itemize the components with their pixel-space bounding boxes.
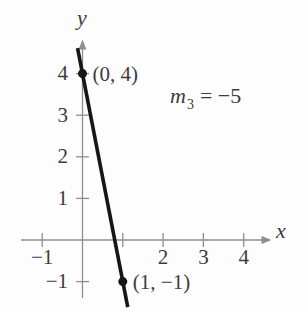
data-point-label: (0, 4) [93, 62, 139, 86]
y-tick-label: 1 [58, 186, 69, 210]
y-tick-label: −1 [46, 269, 68, 293]
x-tick-labels: −1234 [31, 245, 249, 269]
y-axis-arrow-icon [79, 40, 87, 50]
slope-annotation: m3= −5 [170, 83, 241, 112]
y-tick-label: 4 [58, 61, 69, 85]
x-axis: −1234 x [21, 218, 286, 269]
y-tick-label: 3 [58, 103, 69, 127]
slope-var: m [170, 83, 186, 108]
y-axis-title: y [75, 5, 87, 30]
graph-canvas: −1234 x 4321−1 y (0, 4)(1, −1) m3= −5 [0, 0, 308, 311]
x-axis-arrow-icon [262, 236, 272, 244]
x-tick-label: −1 [31, 245, 53, 269]
data-point-label: (1, −1) [133, 270, 190, 294]
data-point-dot [118, 277, 127, 286]
x-tick-label: 3 [198, 245, 209, 269]
slope-subscript: 3 [187, 97, 194, 112]
data-point-dot [78, 69, 87, 78]
slope-graph-figure: −1234 x 4321−1 y (0, 4)(1, −1) m3= −5 [0, 0, 308, 311]
x-axis-title: x [275, 218, 286, 243]
slope-value: = −5 [200, 83, 241, 108]
plotted-line [78, 48, 128, 307]
y-tick-label: 2 [58, 144, 69, 168]
x-tick-label: 2 [158, 245, 169, 269]
x-tick-label: 4 [238, 245, 249, 269]
